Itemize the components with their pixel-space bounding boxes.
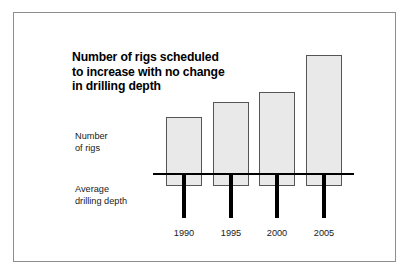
depth-line-2005 bbox=[322, 175, 326, 218]
year-label-1995: 1995 bbox=[211, 228, 251, 238]
year-label-2005: 2005 bbox=[304, 228, 344, 238]
depth-line-1990 bbox=[182, 175, 186, 218]
chart-title: Number of rigs scheduled to increase wit… bbox=[72, 50, 322, 94]
label-average-drilling-depth: Average drilling depth bbox=[75, 184, 127, 207]
depth-line-2000 bbox=[275, 175, 279, 218]
year-label-1990: 1990 bbox=[164, 228, 204, 238]
figure-frame: Number of rigs scheduled to increase wit… bbox=[13, 12, 396, 262]
depth-line-1995 bbox=[229, 175, 233, 218]
label-number-of-rigs: Number of rigs bbox=[75, 131, 108, 154]
year-label-2000: 2000 bbox=[257, 228, 297, 238]
bar-2005 bbox=[306, 55, 342, 186]
bar-2000 bbox=[259, 92, 295, 186]
